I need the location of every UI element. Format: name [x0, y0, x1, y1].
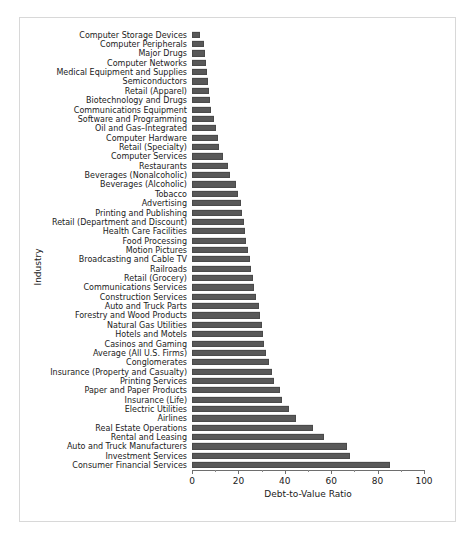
bar-row: Auto and Truck Parts: [192, 301, 424, 310]
bar-row: Casinos and Gaming: [192, 339, 424, 348]
bar-row: Retail (Grocery): [192, 273, 424, 282]
bar-category-label: Construction Services: [100, 292, 187, 301]
bar-category-label: Insurance (Life): [125, 395, 187, 404]
bar-row: Forestry and Wood Products: [192, 311, 424, 320]
bar: [192, 378, 274, 384]
bar: [192, 294, 256, 300]
bar-row: Average (All U.S. Firms): [192, 348, 424, 357]
bar-category-label: Tobacco: [155, 189, 187, 198]
bar-category-label: Printing Services: [120, 376, 187, 385]
bar: [192, 125, 216, 131]
bar: [192, 32, 200, 38]
bar-row: Advertising: [192, 198, 424, 207]
bar-category-label: Advertising: [142, 199, 187, 208]
bar-row: Construction Services: [192, 292, 424, 301]
bar: [192, 359, 269, 365]
bar: [192, 97, 210, 103]
bar-row: Biotechnology and Drugs: [192, 96, 424, 105]
bar: [192, 303, 259, 309]
bar-category-label: Computer Hardware: [106, 133, 187, 142]
bar: [192, 135, 218, 141]
bar: [192, 425, 313, 431]
x-axis-tick: [378, 470, 379, 474]
x-axis-tick-label: 80: [358, 476, 398, 486]
bar-category-label: Casinos and Gaming: [105, 339, 187, 348]
bar-row: Retail (Apparel): [192, 86, 424, 95]
x-axis: 020406080100: [192, 470, 424, 471]
bar: [192, 50, 205, 56]
x-axis-tick-label: 40: [265, 476, 305, 486]
bar-category-label: Computer Services: [111, 152, 187, 161]
bar: [192, 163, 228, 169]
bar-category-label: Forestry and Wood Products: [75, 311, 187, 320]
bar: [192, 369, 272, 375]
bar-category-label: Computer Networks: [107, 58, 187, 67]
bar: [192, 312, 260, 318]
bar-category-label: Hotels and Motels: [115, 330, 187, 339]
bar-row: Retail (Specialty): [192, 142, 424, 151]
bar-row: Software and Programming: [192, 114, 424, 123]
bar: [192, 387, 280, 393]
bar: [192, 453, 350, 459]
bar-row: Communications Services: [192, 283, 424, 292]
bar-category-label: Motion Pictures: [126, 245, 187, 254]
bar-row: Rental and Leasing: [192, 432, 424, 441]
bar-category-label: Auto and Truck Manufacturers: [67, 442, 187, 451]
bar-category-label: Natural Gas Utilities: [107, 320, 187, 329]
x-axis-tick-label: 0: [172, 476, 212, 486]
bar-category-label: Oil and Gas–Integrated: [95, 124, 187, 133]
bar-row: Hotels and Motels: [192, 330, 424, 339]
x-axis-tick-label: 60: [311, 476, 351, 486]
bar-row: Natural Gas Utilities: [192, 320, 424, 329]
bar-row: Restaurants: [192, 161, 424, 170]
bar-row: Insurance (Property and Casualty): [192, 367, 424, 376]
plot-area: Computer Storage DevicesComputer Periphe…: [192, 30, 424, 470]
bar-category-label: Food Processing: [123, 236, 187, 245]
bar-row: Computer Hardware: [192, 133, 424, 142]
bar: [192, 88, 209, 94]
x-axis-minor-tick: [215, 470, 216, 472]
bar-row: Printing and Publishing: [192, 208, 424, 217]
bar: [192, 350, 266, 356]
bar-row: Computer Networks: [192, 58, 424, 67]
bar-rows: Computer Storage DevicesComputer Periphe…: [192, 30, 424, 470]
bar: [192, 284, 254, 290]
bar-row: Major Drugs: [192, 49, 424, 58]
bar: [192, 256, 250, 262]
bar-row: Auto and Truck Manufacturers: [192, 442, 424, 451]
bar-category-label: Retail (Department and Discount): [52, 217, 187, 226]
bar: [192, 200, 241, 206]
bar-category-label: Average (All U.S. Firms): [93, 348, 187, 357]
bar-row: Investment Services: [192, 451, 424, 460]
bar: [192, 247, 248, 253]
bar-category-label: Software and Programming: [78, 114, 187, 123]
bar: [192, 219, 244, 225]
x-axis-tick-label: 20: [218, 476, 258, 486]
bar-row: Computer Storage Devices: [192, 30, 424, 39]
bar-category-label: Computer Peripherals: [100, 40, 187, 49]
bar-category-label: Real Estate Operations: [95, 423, 187, 432]
bar: [192, 397, 282, 403]
bar-row: Food Processing: [192, 236, 424, 245]
bar: [192, 434, 324, 440]
bar-row: Medical Equipment and Supplies: [192, 67, 424, 76]
x-axis-tick: [238, 470, 239, 474]
bar: [192, 406, 289, 412]
bar: [192, 275, 253, 281]
bar-row: Conglomerates: [192, 358, 424, 367]
bar-category-label: Medical Equipment and Supplies: [56, 68, 187, 77]
x-axis-minor-tick: [262, 470, 263, 472]
x-axis-tick: [331, 470, 332, 474]
bar-category-label: Railroads: [150, 264, 187, 273]
bar-row: Retail (Department and Discount): [192, 217, 424, 226]
bar-row: Railroads: [192, 264, 424, 273]
bar-category-label: Retail (Apparel): [125, 86, 187, 95]
bar-category-label: Communications Services: [84, 283, 188, 292]
bar-row: Semiconductors: [192, 77, 424, 86]
bar-category-label: Paper and Paper Products: [84, 386, 187, 395]
x-axis-title: Debt-to-Value Ratio: [192, 489, 424, 499]
bar-category-label: Major Drugs: [138, 49, 187, 58]
chart-figure: Industry Computer Storage DevicesCompute…: [0, 0, 474, 546]
bar-category-label: Health Care Facilities: [103, 227, 187, 236]
bar-row: Electric Utilities: [192, 404, 424, 413]
